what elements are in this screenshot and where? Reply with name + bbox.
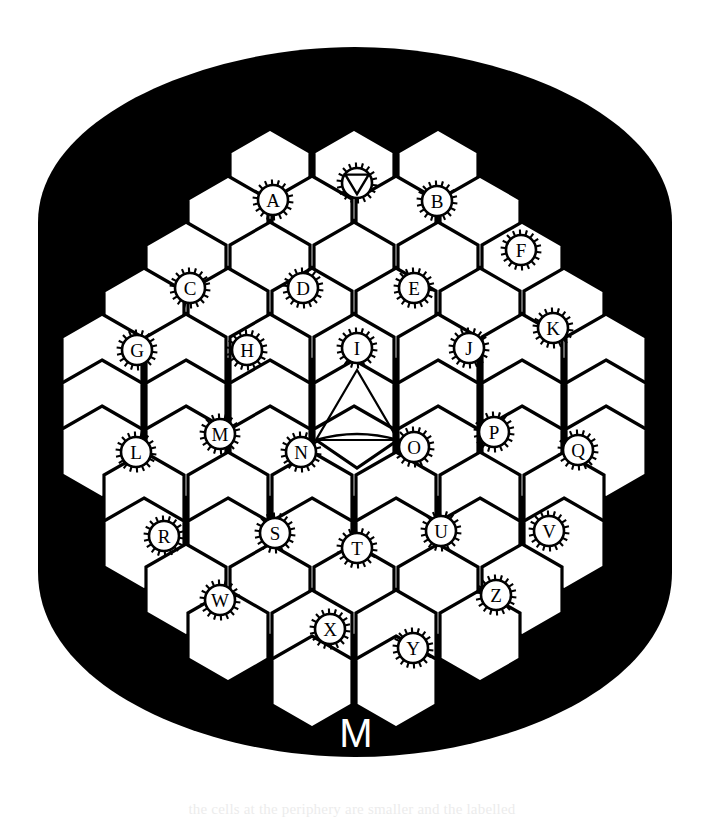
marker-label: D xyxy=(296,278,310,299)
marker-label: T xyxy=(351,538,363,559)
marker-label: J xyxy=(465,338,472,359)
marker-label: F xyxy=(516,240,527,261)
marker-label: Z xyxy=(490,585,502,606)
marker-label: K xyxy=(546,318,560,339)
marker-label: Y xyxy=(406,638,420,659)
marker-label: S xyxy=(270,523,281,544)
caption-bleed-text: the cells at the periphery are smaller a… xyxy=(0,801,704,819)
marker-label: Q xyxy=(571,440,585,461)
marker-label: W xyxy=(211,590,229,611)
marker-label: I xyxy=(354,338,360,359)
marker-label: V xyxy=(542,521,556,542)
marker-label: P xyxy=(489,422,500,443)
marker-label: G xyxy=(130,340,144,361)
figure-root: ABFCDEKGHIJMPLNOQRSUVTWZXY M the cells a… xyxy=(0,0,704,819)
hex-comb-figure: ABFCDEKGHIJMPLNOQRSUVTWZXY M xyxy=(0,0,704,819)
marker-label: L xyxy=(130,442,142,463)
marker-label: C xyxy=(184,278,197,299)
marker-label: M xyxy=(212,424,229,445)
marker-label: O xyxy=(407,437,421,458)
bottom-marker-label: M xyxy=(339,711,372,755)
marker-label: R xyxy=(158,526,171,547)
marker-label: N xyxy=(294,442,308,463)
marker-label: U xyxy=(434,521,448,542)
marker-label: B xyxy=(431,191,444,212)
bottom-marker-layer: M xyxy=(339,711,372,755)
marker-label: H xyxy=(240,340,254,361)
marker-label: X xyxy=(323,619,337,640)
marker-label: E xyxy=(408,278,420,299)
marker-label: A xyxy=(266,190,280,211)
